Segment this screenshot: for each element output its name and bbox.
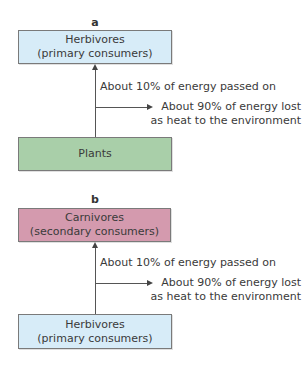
energy-lost-label-a: About 90% of energy lost as heat to the …	[151, 100, 301, 128]
energy-lost-line2: as heat to the environment	[151, 114, 301, 128]
energy-passed-label-b: About 10% of energy passed on	[100, 256, 276, 270]
energy-loss-branch-b	[95, 283, 147, 284]
herbivores-title: Herbivores	[65, 33, 125, 47]
energy-loss-branch-a	[95, 107, 147, 108]
energy-passed-label-a: About 10% of energy passed on	[100, 80, 276, 94]
carnivores-box: Carnivores (secondary consumers)	[18, 208, 171, 242]
plants-title: Plants	[78, 147, 111, 161]
energy-flow-stem-b	[95, 246, 96, 314]
panel-label-a: a	[85, 16, 105, 29]
arrow-up-icon	[92, 64, 98, 70]
herbivores-subtitle: (primary consumers)	[37, 47, 152, 61]
carnivores-subtitle: (secondary consumers)	[30, 225, 159, 239]
arrow-up-icon	[92, 242, 98, 248]
panel-label-b: b	[85, 193, 105, 206]
plants-box: Plants	[18, 137, 172, 171]
herbivores-subtitle: (primary consumers)	[37, 332, 152, 346]
energy-lost-line1: About 90% of energy lost	[151, 100, 301, 114]
energy-lost-line2: as heat to the environment	[151, 290, 301, 304]
herbivores-box-a: Herbivores (primary consumers)	[18, 30, 172, 64]
energy-lost-label-b: About 90% of energy lost as heat to the …	[151, 276, 301, 304]
herbivores-box-b: Herbivores (primary consumers)	[18, 314, 172, 349]
energy-flow-stem-a	[95, 68, 96, 137]
herbivores-title: Herbivores	[65, 318, 125, 332]
energy-lost-line1: About 90% of energy lost	[151, 276, 301, 290]
carnivores-title: Carnivores	[65, 211, 124, 225]
